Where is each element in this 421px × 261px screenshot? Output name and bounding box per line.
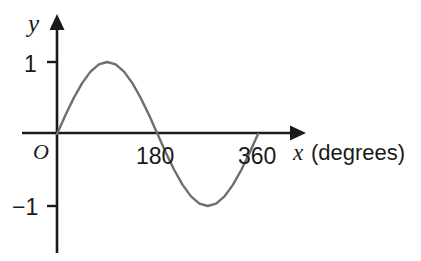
y-axis-label: y	[25, 10, 40, 37]
x-axis-arrow-icon	[290, 126, 306, 141]
x-axis-variable-label: x	[292, 140, 304, 165]
y-tick-label-one: 1	[24, 51, 37, 77]
x-axis-units-label: (degrees)	[311, 140, 405, 165]
sine-graph-figure: y O 1 −1 180 360 x (degrees)	[0, 0, 421, 261]
y-axis-arrow-icon	[50, 14, 65, 30]
origin-label: O	[33, 139, 49, 164]
y-tick-label-negative-one: −1	[12, 194, 38, 220]
x-tick-label-360: 360	[238, 143, 276, 169]
graph-canvas: y O 1 −1 180 360 x (degrees)	[0, 0, 421, 261]
x-tick-label-180: 180	[136, 143, 174, 169]
